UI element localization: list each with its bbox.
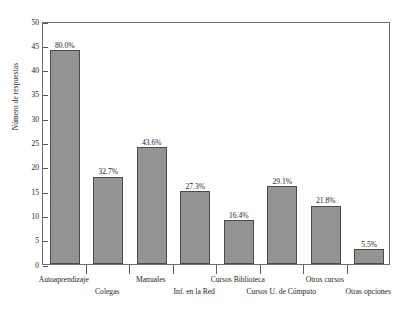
y-tick-label: 30 [31,115,39,124]
y-tick-label: 25 [31,139,39,148]
y-tick-mark [43,241,48,242]
x-axis-category-label: Inf. en la Red [174,287,215,296]
bar-chart-figure: Número de respuestas 0510152025303540455… [0,0,403,312]
y-tick-label: 40 [31,66,39,75]
bar-value-label: 32.7% [98,167,118,176]
y-tick-mark [43,266,48,267]
plot-area: 05101520253035404550 80.0%32.7%43.6%27.3… [42,22,390,265]
y-tick-label: 35 [31,90,39,99]
x-axis-category-label: Manuales [136,275,166,284]
y-tick-mark [43,95,48,96]
bar: 32.7% [93,177,123,264]
y-tick-mark [43,120,48,121]
bar: 27.3% [180,191,210,264]
bar-value-label: 43.6% [142,138,162,147]
bar: 80.0% [50,50,80,264]
y-tick-label: 10 [31,212,39,221]
y-tick-mark [43,71,48,72]
x-axis-category-label: Cursos Biblioteca [211,275,265,284]
y-tick-label: 45 [31,42,39,51]
y-tick-mark [43,217,48,218]
y-tick-label: 20 [31,163,39,172]
bar: 29.1% [267,186,297,264]
x-axis-tick [260,265,261,274]
bar: 5.5% [354,249,384,264]
y-tick-mark [43,168,48,169]
bar-value-label: 5.5% [361,240,377,249]
x-axis-category-label: Autoaprendizaje [39,275,89,284]
y-tick-label: 5 [35,236,39,245]
bar: 21.8% [311,206,341,264]
x-axis-tick [347,265,348,274]
y-tick-mark [43,193,48,194]
y-tick-mark [43,47,48,48]
bar-value-label: 21.8% [316,196,336,205]
x-axis-tick [303,265,304,274]
x-axis-tick [129,265,130,274]
bar-value-label: 29.1% [272,177,292,186]
x-axis-tick [173,265,174,274]
bar-value-label: 80.0% [55,41,75,50]
x-axis-tick [216,265,217,274]
y-tick-label: 15 [31,188,39,197]
y-tick-mark [43,23,48,24]
y-tick-label: 0 [35,261,39,270]
x-axis-category-label: Cursos U. de Cómputo [246,287,316,296]
bar: 43.6% [137,147,167,264]
x-axis-category-label: Colegas [95,287,119,296]
y-axis-title: Número de respuestas [11,42,20,152]
bar: 16.4% [224,220,254,264]
x-axis-tick [86,265,87,274]
y-tick-mark [43,144,48,145]
x-axis-category-label: Otros cursos [306,275,344,284]
bar-value-label: 16.4% [229,211,249,220]
y-tick-label: 50 [31,18,39,27]
bar-value-label: 27.3% [185,182,205,191]
x-axis-category-label: Otras opciones [346,287,391,296]
